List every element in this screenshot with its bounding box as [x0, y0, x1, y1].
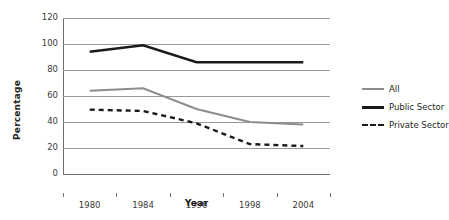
y-tick-label: 40: [24, 117, 58, 126]
legend-item-all[interactable]: All: [362, 80, 449, 98]
x-tick-mark: [330, 193, 331, 197]
gridline: [63, 174, 330, 175]
y-tick-label: 0: [24, 169, 58, 178]
y-tick-label: 80: [24, 65, 58, 74]
legend-item-public-sector[interactable]: Public Sector: [362, 98, 449, 116]
legend-label: Public Sector: [389, 102, 444, 112]
series-line-all: [90, 88, 304, 124]
x-axis-title: Year: [63, 197, 330, 208]
legend-swatch-icon: [362, 84, 384, 94]
plot-area: [63, 18, 330, 174]
series-line-public-sector: [90, 45, 304, 62]
chart-legend: AllPublic SectorPrivate Sector: [362, 80, 449, 134]
legend-swatch-icon: [362, 102, 384, 112]
y-tick-label: 100: [24, 39, 58, 48]
y-tick-label: 60: [24, 91, 58, 100]
y-axis-tick-labels: 120100806040200: [20, 18, 58, 174]
legend-swatch-icon: [362, 120, 384, 130]
legend-item-private-sector[interactable]: Private Sector: [362, 116, 449, 134]
y-tick-label: 120: [24, 13, 58, 22]
series-layer: [63, 18, 330, 174]
y-tick-label: 20: [24, 143, 58, 152]
series-line-private-sector: [90, 110, 304, 146]
legend-label: Private Sector: [389, 120, 449, 130]
line-chart: Percentage 120100806040200 1980198419901…: [0, 0, 449, 220]
legend-label: All: [389, 84, 400, 94]
